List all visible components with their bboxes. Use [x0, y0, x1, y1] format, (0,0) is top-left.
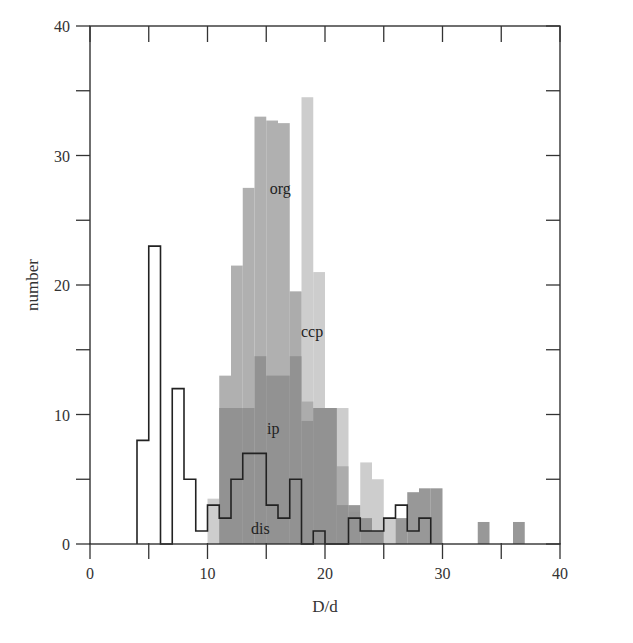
bar-ip	[313, 408, 325, 544]
histogram-chart: 010203040010203040 orgccpipdis D/d numbe…	[0, 0, 633, 643]
x-axis-title: D/d	[312, 597, 338, 616]
bar-ip	[407, 492, 419, 544]
y-tick-label: 0	[62, 536, 70, 553]
bar-ip	[337, 505, 349, 544]
bar-ip	[219, 408, 231, 544]
series-label-ip: ip	[267, 420, 279, 438]
x-tick-label: 30	[435, 565, 451, 582]
bar-ip	[478, 522, 490, 544]
bar-ip	[349, 505, 361, 544]
bar-ccp	[384, 518, 396, 544]
x-tick-label: 0	[86, 565, 94, 582]
series-layer	[208, 97, 525, 544]
bar-ip	[290, 356, 302, 544]
bar-ip	[325, 408, 337, 544]
x-tick-label: 40	[552, 565, 568, 582]
bar-ip	[302, 421, 314, 544]
series-label-org: org	[270, 180, 291, 198]
bar-ip	[419, 488, 431, 544]
y-axis-title: number	[23, 259, 42, 311]
x-tick-label: 20	[317, 565, 333, 582]
bar-ip	[431, 488, 443, 544]
series-label-ccp: ccp	[301, 323, 323, 341]
y-tick-label: 30	[54, 148, 70, 165]
x-tick-label: 10	[200, 565, 216, 582]
bar-ip	[231, 408, 243, 544]
bar-ip	[372, 531, 384, 544]
series-label-dis: dis	[251, 520, 270, 537]
y-tick-label: 10	[54, 407, 70, 424]
bar-ip	[513, 522, 525, 544]
bar-ip	[255, 356, 267, 544]
y-tick-label: 20	[54, 277, 70, 294]
y-tick-label: 40	[54, 18, 70, 35]
bar-ip	[396, 518, 408, 544]
